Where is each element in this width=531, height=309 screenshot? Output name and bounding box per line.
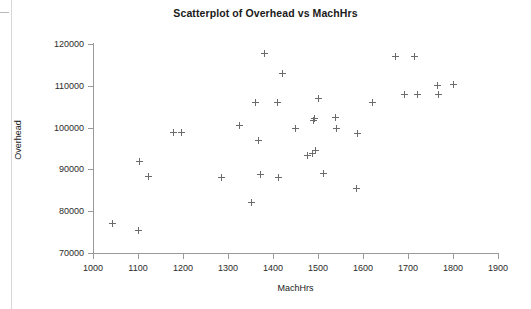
x-axis-tick-label: 1900: [476, 262, 520, 274]
x-axis-tick: [93, 254, 94, 259]
data-point-marker: [414, 91, 421, 98]
x-axis-tick: [363, 254, 364, 259]
x-axis-tick-label: 1500: [296, 262, 340, 274]
x-axis-tick-label: 1100: [116, 262, 160, 274]
data-point-marker: [435, 91, 442, 98]
y-axis-tick-label: 100000: [38, 123, 84, 133]
x-axis-tick-label: 1000: [71, 262, 115, 274]
data-point-marker: [135, 227, 142, 234]
data-point-marker: [292, 125, 299, 132]
data-point-marker: [178, 129, 185, 136]
data-point-marker: [392, 53, 399, 60]
x-axis-tick-label-wrap: 1000: [71, 262, 115, 274]
x-axis-tick-label-wrap: 1500: [296, 262, 340, 274]
data-point-marker: [450, 81, 457, 88]
x-axis-tick: [273, 254, 274, 259]
y-axis-tick-label-wrap: 70000: [36, 248, 84, 258]
x-axis-tick-label-wrap: 1400: [251, 262, 295, 274]
data-point-marker: [218, 174, 225, 181]
y-axis-tick-label-wrap: 110000: [36, 81, 84, 91]
x-axis-tick-label: 1600: [341, 262, 385, 274]
data-point-marker: [401, 91, 408, 98]
data-point-marker: [315, 95, 322, 102]
x-axis-line: [93, 253, 499, 254]
x-axis-tick: [408, 254, 409, 259]
x-axis-tick: [228, 254, 229, 259]
plot-area: [93, 44, 498, 253]
x-axis-tick-label: 1800: [431, 262, 475, 274]
data-point-marker: [252, 99, 259, 106]
data-point-marker: [255, 137, 262, 144]
x-axis-tick-label-wrap: 1200: [161, 262, 205, 274]
x-axis-tick-label-wrap: 1300: [206, 262, 250, 274]
data-point-marker: [257, 171, 264, 178]
y-axis-title: Overhead: [13, 100, 23, 180]
y-axis-tick-label-wrap: 90000: [36, 164, 84, 174]
data-point-marker: [353, 185, 360, 192]
x-axis-tick-label-wrap: 1100: [116, 262, 160, 274]
data-point-marker: [274, 99, 281, 106]
data-point-marker: [109, 220, 116, 227]
data-point-marker: [332, 114, 339, 121]
x-axis-tick: [498, 254, 499, 259]
data-point-marker: [145, 173, 152, 180]
data-point-marker: [312, 147, 319, 154]
data-point-marker: [311, 115, 318, 122]
data-point-marker: [279, 70, 286, 77]
data-point-marker: [333, 125, 340, 132]
chart-title: Scatterplot of Overhead vs MachHrs: [0, 7, 531, 19]
x-axis-tick: [183, 254, 184, 259]
data-point-marker: [170, 129, 177, 136]
x-axis-tick: [453, 254, 454, 259]
data-point-marker: [248, 199, 255, 206]
scatter-chart: Scatterplot of Overhead vs MachHrs 70000…: [0, 0, 531, 309]
y-axis-tick-label: 90000: [38, 164, 84, 174]
x-axis-tick: [318, 254, 319, 259]
y-axis-tick-label: 120000: [38, 39, 84, 49]
data-point-marker: [261, 50, 268, 57]
y-axis-tick-label-wrap: 120000: [36, 39, 84, 49]
y-axis-tick-label: 70000: [38, 248, 84, 258]
data-point-marker: [434, 82, 441, 89]
data-point-marker: [320, 170, 327, 177]
x-axis-title: MachHrs: [93, 283, 498, 293]
data-point-marker: [354, 130, 361, 137]
y-axis-tick-label: 110000: [38, 81, 84, 91]
data-point-marker: [411, 53, 418, 60]
data-point-marker: [136, 158, 143, 165]
data-point-marker: [369, 99, 376, 106]
x-axis-tick-label: 1300: [206, 262, 250, 274]
y-axis-tick-label-wrap: 80000: [36, 206, 84, 216]
data-point-marker: [236, 122, 243, 129]
x-axis-tick: [138, 254, 139, 259]
x-axis-tick-label-wrap: 1900: [476, 262, 520, 274]
data-point-marker: [275, 174, 282, 181]
y-axis-tick-label-wrap: 100000: [36, 123, 84, 133]
x-axis-tick-label: 1200: [161, 262, 205, 274]
x-axis-tick-label: 1700: [386, 262, 430, 274]
x-axis-tick-label: 1400: [251, 262, 295, 274]
y-axis-tick-label: 80000: [38, 206, 84, 216]
x-axis-tick-label-wrap: 1600: [341, 262, 385, 274]
x-axis-tick-label-wrap: 1800: [431, 262, 475, 274]
x-axis-tick-label-wrap: 1700: [386, 262, 430, 274]
